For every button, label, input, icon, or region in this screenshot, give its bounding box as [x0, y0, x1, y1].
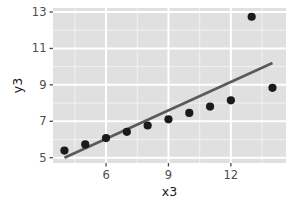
data-point [164, 115, 172, 123]
y-axis: 5791113 [32, 5, 53, 165]
data-point [227, 96, 235, 104]
y-tick-label: 7 [39, 114, 46, 128]
data-point [248, 13, 256, 21]
y-tick-label: 11 [32, 41, 47, 55]
data-point [60, 147, 68, 155]
data-point [81, 140, 89, 148]
data-point [268, 84, 276, 92]
chart-container: 57911136912x3y3 [0, 0, 298, 206]
x-axis: 6912 [102, 163, 238, 182]
x-axis-title: x3 [162, 184, 177, 199]
y-axis-title: y3 [10, 78, 25, 93]
y-tick-label: 13 [32, 5, 47, 19]
x-tick-label: 12 [224, 168, 239, 182]
scatter-plot-svg: 57911136912x3y3 [0, 0, 298, 206]
x-tick-label: 6 [102, 168, 109, 182]
data-point [123, 128, 131, 136]
y-tick-label: 5 [39, 151, 46, 165]
x-tick-label: 9 [165, 168, 172, 182]
data-point [102, 134, 110, 142]
data-point [144, 121, 152, 129]
data-point [185, 109, 193, 117]
y-tick-label: 9 [39, 78, 46, 92]
data-point [206, 102, 214, 110]
